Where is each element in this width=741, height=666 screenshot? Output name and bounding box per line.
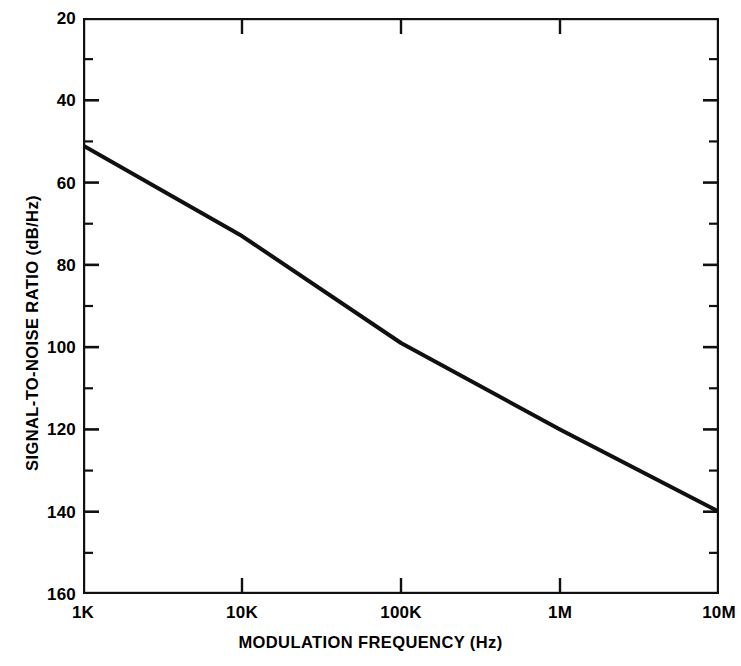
- chart-figure: 20406080100120140160 1K10K100K1M10M MODU…: [0, 0, 741, 666]
- data-series: [83, 146, 719, 512]
- plot-area: [83, 18, 719, 594]
- x-axis-title: MODULATION FREQUENCY (Hz): [0, 633, 741, 652]
- axis-frame: [84, 19, 718, 593]
- y-axis-title: SIGNAL-TO-NOISE RATIO (dB/Hz): [14, 0, 50, 666]
- x-tick-label: 1M: [500, 604, 620, 621]
- x-axis-tick-labels: 1K10K100K1M10M: [0, 604, 741, 630]
- x-tick-label: 10K: [182, 604, 302, 621]
- plot-svg: [83, 18, 719, 594]
- x-tick-label: 10M: [659, 604, 741, 621]
- axis-ticks: [84, 19, 718, 593]
- x-tick-label: 100K: [341, 604, 461, 621]
